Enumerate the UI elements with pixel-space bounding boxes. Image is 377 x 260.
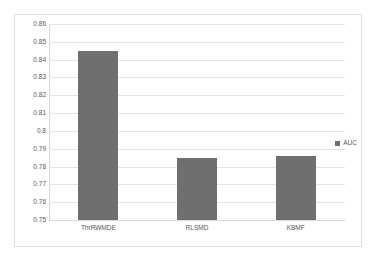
x-axis-category-label: RLSMD [157,225,237,232]
y-axis-tick-label: 0.83 [16,74,46,81]
bar-rlsmd [177,158,217,220]
y-axis-tick-label: 0.84 [16,56,46,63]
y-axis-tick-label: 0.79 [16,145,46,152]
y-axis-tick-label: 0.78 [16,163,46,170]
legend-swatch-auc-icon [335,141,340,146]
y-axis-tick-label: 0.77 [16,181,46,188]
bar-kbmf [276,156,316,220]
legend-label-auc: AUC [343,140,357,147]
y-axis-tick-label: 0.8 [16,128,46,135]
bar-thrrwmde [78,51,118,220]
gridline [49,42,345,43]
y-axis-tick-labels: 0.860.850.840.830.820.810.80.790.780.770… [15,24,46,220]
x-axis-category-label: ThrRWMDE [58,225,138,232]
x-axis-category-label: KBMF [256,225,336,232]
y-axis-tick-label: 0.76 [16,199,46,206]
y-axis-tick-label: 0.86 [16,21,46,28]
chart-frame: 0.860.850.840.830.820.810.80.790.780.770… [14,14,362,247]
plot-area [49,24,345,220]
gridline [49,220,345,221]
y-axis-tick-label: 0.85 [16,39,46,46]
y-axis-tick-label: 0.75 [16,217,46,224]
chart-legend: AUC [335,140,357,147]
y-axis-tick-label: 0.81 [16,110,46,117]
gridline [49,24,345,25]
y-axis-tick-label: 0.82 [16,92,46,99]
